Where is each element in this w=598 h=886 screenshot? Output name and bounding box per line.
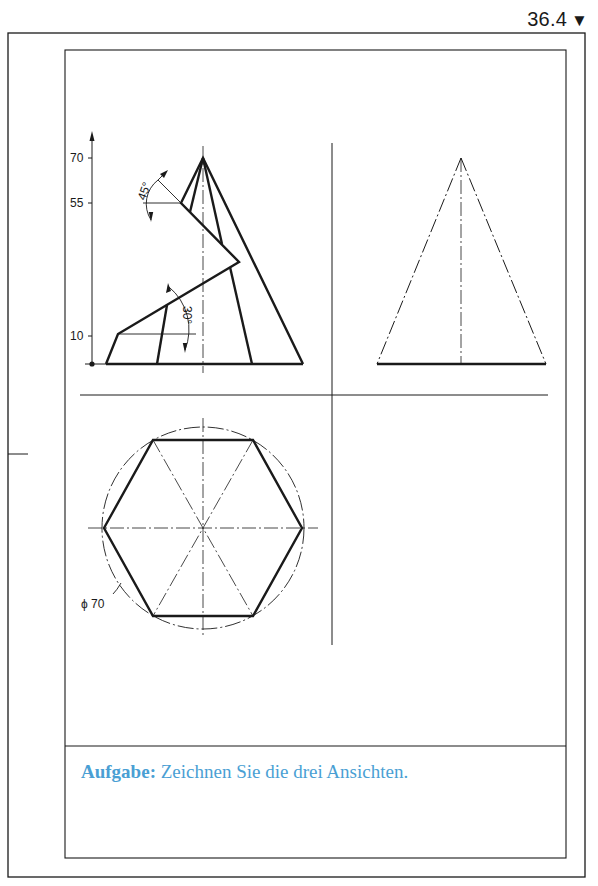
height-label-70: 70 [70,151,84,165]
front-view: 70 55 10 45° [70,131,303,373]
top-view: ϕ 70 [81,418,318,638]
side-view [377,158,546,364]
side-edge-right [461,158,546,364]
inner-frame [65,50,566,858]
arrow-up-icon [90,131,95,141]
task-label: Aufgabe [81,761,150,782]
angle-label-30: 30° [180,306,194,324]
angle-label-45: 45° [135,180,154,202]
technical-drawing: 70 55 10 45° [0,0,598,886]
diameter-leader [113,583,121,594]
front-outline [106,158,303,364]
height-label-10: 10 [70,329,84,343]
arrow-icon [183,343,187,353]
outer-frame [8,33,585,877]
height-label-55: 55 [70,196,84,210]
task-text: Zeichnen Sie die drei Ansichten. [156,761,408,782]
task-instruction: Aufgabe: Zeichnen Sie die drei Ansichten… [81,761,408,783]
side-edge-left [377,158,461,364]
diameter-label: ϕ 70 [81,597,105,611]
